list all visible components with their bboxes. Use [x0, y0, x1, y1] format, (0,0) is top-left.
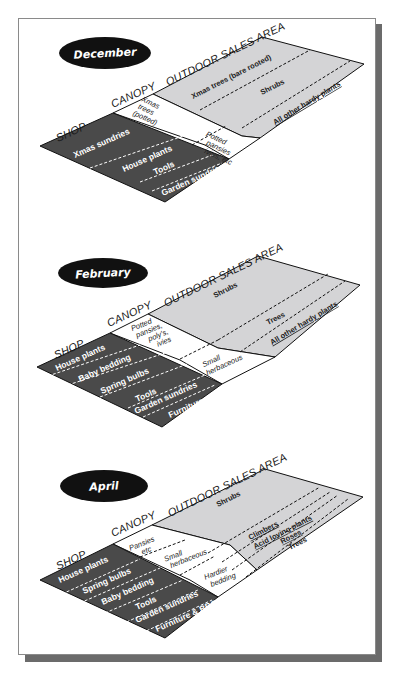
diagram-april: April SHOP CANOPY OUTDOOR SALES AREA Hou…: [40, 451, 363, 638]
layout-diagrams: December SHOP CANOPY OUTDOOR SALES AREA …: [0, 0, 393, 683]
diagram-february: February SHOP CANOPY OUTDOOR SALES AREA …: [37, 241, 360, 427]
diagram-december: December SHOP CANOPY OUTDOOR SALES AREA …: [40, 20, 364, 202]
month-label: April: [88, 479, 119, 494]
